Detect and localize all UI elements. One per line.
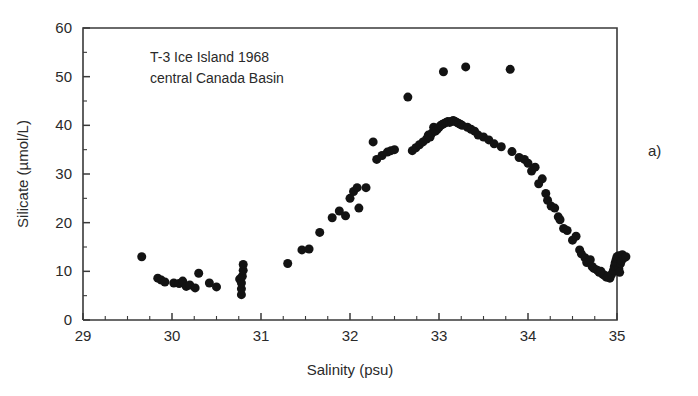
data-point	[160, 278, 169, 287]
data-point	[531, 163, 540, 172]
y-tick-label: 20	[55, 214, 72, 231]
panel-label: a)	[648, 142, 661, 159]
data-point	[341, 211, 350, 220]
x-tick-label: 35	[609, 327, 626, 344]
data-point	[507, 147, 516, 156]
y-tick-label: 50	[55, 68, 72, 85]
y-axis-title: Silicate (µmol/L)	[14, 120, 31, 228]
data-point	[461, 62, 470, 71]
data-point	[556, 215, 565, 224]
y-tick-label: 60	[55, 19, 72, 36]
data-point	[390, 145, 399, 154]
y-tick-label: 40	[55, 116, 72, 133]
data-point	[615, 268, 624, 277]
data-point	[369, 137, 378, 146]
data-point	[403, 93, 412, 102]
data-point	[563, 226, 572, 235]
data-point	[538, 174, 547, 183]
y-tick-label: 0	[64, 311, 72, 328]
data-point	[353, 183, 362, 192]
data-point	[191, 283, 200, 292]
x-axis-title: Salinity (psu)	[307, 361, 394, 378]
x-tick-label: 31	[253, 327, 270, 344]
data-point	[550, 204, 559, 213]
x-tick-label: 29	[75, 327, 92, 344]
figure-container: 29303132333435 0102030405060 Salinity (p…	[0, 0, 698, 396]
y-tick-label: 10	[55, 262, 72, 279]
x-tick-label: 30	[164, 327, 181, 344]
data-point	[194, 269, 203, 278]
data-point	[362, 183, 371, 192]
data-point	[212, 282, 221, 291]
data-point	[497, 142, 506, 151]
x-tick-label: 33	[431, 327, 448, 344]
y-tick-label: 30	[55, 165, 72, 182]
data-point	[315, 228, 324, 237]
silicate-salinity-scatter-plot: 29303132333435 0102030405060 Salinity (p…	[0, 0, 698, 396]
data-point	[239, 260, 248, 269]
annotation-line-1: T-3 Ice Island 1968	[150, 49, 269, 65]
data-point	[137, 252, 146, 261]
annotation-line-2: central Canada Basin	[150, 70, 284, 86]
data-point	[354, 204, 363, 213]
data-point	[572, 232, 581, 241]
data-point	[621, 252, 630, 261]
data-point	[305, 244, 314, 253]
data-point	[439, 67, 448, 76]
x-tick-label: 34	[520, 327, 537, 344]
data-point	[283, 259, 292, 268]
data-point	[506, 65, 515, 74]
x-tick-label: 32	[342, 327, 359, 344]
data-point	[328, 213, 337, 222]
